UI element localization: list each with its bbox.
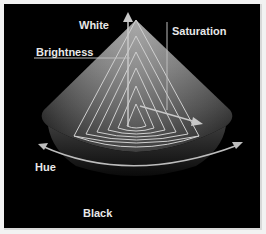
- label-brightness: Brightness: [36, 46, 93, 58]
- label-white: White: [79, 19, 109, 31]
- cone-body: [42, 20, 233, 176]
- label-black: Black: [83, 207, 112, 219]
- label-saturation: Saturation: [172, 25, 226, 37]
- label-hue: Hue: [35, 161, 56, 173]
